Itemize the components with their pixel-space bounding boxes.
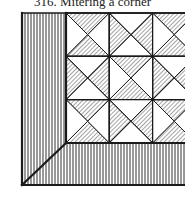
quilt-block-grid bbox=[66, 13, 185, 143]
quilt-block bbox=[153, 56, 185, 99]
quilt-block bbox=[109, 100, 152, 143]
quilt-block bbox=[153, 13, 185, 56]
quilt-block bbox=[109, 13, 152, 56]
mitered-corner-illustration bbox=[0, 0, 185, 198]
quilt-block bbox=[109, 56, 152, 99]
quilt-block bbox=[66, 100, 109, 143]
quilt-block bbox=[66, 13, 109, 56]
quilt-block bbox=[153, 100, 185, 143]
quilt-block bbox=[66, 56, 109, 99]
